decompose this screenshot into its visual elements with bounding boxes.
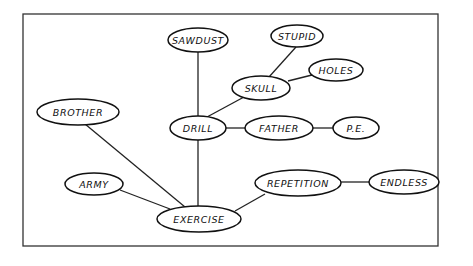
node-father: FATHER (245, 116, 313, 140)
node-label: STUPID (278, 31, 316, 42)
node-army: ARMY (65, 173, 123, 195)
node-stupid: STUPID (271, 25, 323, 47)
node-holes: HOLES (309, 59, 363, 81)
node-label: FATHER (259, 123, 299, 134)
edge-army-exercise (120, 190, 170, 209)
edge-repetition-exercise (235, 194, 265, 211)
node-pe: P.E. (333, 117, 379, 139)
node-drill: DRILL (170, 116, 226, 140)
concept-map-diagram: SAWDUSTSTUPIDHOLESSKULLBROTHERDRILLFATHE… (0, 0, 473, 266)
edge-holes-skull (288, 75, 312, 81)
node-label: ARMY (78, 179, 109, 190)
node-label: BROTHER (53, 107, 103, 118)
node-exercise: EXERCISE (157, 206, 241, 232)
node-label: SKULL (245, 83, 278, 94)
node-label: P.E. (347, 123, 366, 134)
node-label: ENDLESS (380, 177, 428, 188)
edge-skull-drill (207, 97, 244, 117)
node-endless: ENDLESS (369, 170, 439, 194)
node-label: EXERCISE (173, 214, 224, 225)
node-brother: BROTHER (37, 99, 119, 125)
node-sawdust: SAWDUST (168, 28, 228, 52)
node-label: REPETITION (267, 178, 329, 189)
node-label: DRILL (183, 123, 213, 134)
edge-stupid-skull (269, 47, 296, 77)
node-label: HOLES (319, 65, 354, 76)
node-skull: SKULL (232, 76, 290, 100)
node-label: SAWDUST (172, 35, 225, 46)
node-repetition: REPETITION (255, 170, 341, 196)
